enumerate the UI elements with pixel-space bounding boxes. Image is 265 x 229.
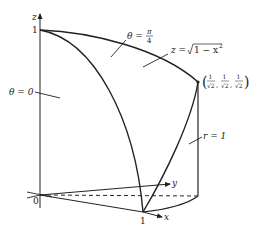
- svg-text:θ =: θ =: [127, 31, 143, 41]
- svg-text:): ): [244, 74, 249, 90]
- svg-text:2: 2: [219, 42, 223, 49]
- top-surface-curve: [40, 30, 198, 82]
- dashed-base-line: [40, 195, 198, 196]
- svg-text:√2: √2: [235, 82, 243, 89]
- y-axis-label: y: [171, 178, 178, 188]
- svg-text:π: π: [146, 28, 152, 36]
- surface-label: z = 1 − x 2: [170, 42, 223, 55]
- theta-pi4-arc: [143, 82, 198, 212]
- corner-point: [196, 80, 199, 83]
- cylinder-label: r = 1: [203, 131, 226, 141]
- svg-text:1 − x: 1 − x: [194, 45, 218, 55]
- svg-text:z =: z =: [170, 45, 186, 55]
- theta-zero-label: θ = 0: [9, 87, 34, 97]
- z-tick-label: 1: [32, 25, 38, 35]
- svg-text:1: 1: [223, 73, 227, 80]
- theta-pi4-label: θ = π 4: [127, 28, 153, 45]
- svg-text:√2: √2: [207, 82, 215, 89]
- point-label: ( 1 √2 , 1 √2 , 1 √2 ): [202, 73, 249, 90]
- theta-zero-arc: [40, 30, 143, 212]
- y-axis: [40, 184, 170, 195]
- svg-text:√2: √2: [221, 82, 229, 89]
- x-axis-segment: [40, 195, 143, 212]
- theta-zero-leader: [35, 92, 60, 98]
- origin-label: 0: [33, 196, 39, 206]
- svg-text:,: ,: [216, 81, 218, 89]
- svg-text:4: 4: [147, 37, 152, 45]
- region-diagram: z 1 0 y x 1 θ = 0 θ = π 4 z = 1 − x 2: [0, 0, 265, 229]
- z-axis-label: z: [31, 12, 37, 22]
- x-axis-arrow: [143, 212, 162, 217]
- svg-text:1: 1: [209, 73, 213, 80]
- x-axis-label: x: [164, 212, 169, 222]
- svg-text:1: 1: [237, 73, 241, 80]
- svg-text:,: ,: [230, 81, 232, 89]
- x-tick-label: 1: [140, 216, 146, 226]
- cylinder-leader: [189, 137, 202, 144]
